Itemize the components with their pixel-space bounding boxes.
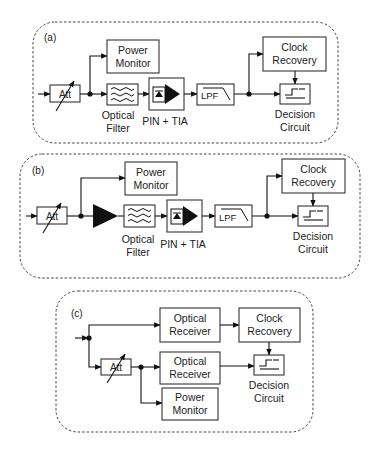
svg-text:Decision: Decision [249,379,289,391]
svg-text:Monitor: Monitor [133,179,169,191]
diagram-canvas: (a) Att Power Monitor Optical Filter [0,0,380,450]
wire [89,325,160,338]
decision-circuit-block: Decision Circuit [275,84,315,133]
decision-circuit-block: Decision Circuit [293,206,333,255]
svg-text:Clock: Clock [281,41,308,53]
svg-text:Circuit: Circuit [298,243,328,255]
attenuator-block: Att [37,203,67,233]
panel-c: (c) Optical Receiver Att Optical Receive… [56,291,313,432]
wire [89,338,101,367]
clock-recovery-block: Clock Recovery [282,159,345,193]
svg-text:PIN + TIA: PIN + TIA [142,115,188,127]
clock-recovery-block: Clock Recovery [239,308,300,342]
svg-text:Filter: Filter [106,122,130,134]
optical-receiver-top-block: Optical Receiver [160,308,220,342]
svg-text:Recovery: Recovery [291,176,336,188]
optical-receiver-bottom-block: Optical Receiver [160,352,220,384]
pin-tia-block: PIN + TIA [142,78,188,127]
wire [249,54,263,94]
svg-text:Optical: Optical [174,312,207,324]
svg-text:Decision: Decision [275,108,315,120]
svg-text:Clock: Clock [256,312,283,324]
svg-text:Receiver: Receiver [169,325,211,337]
svg-text:Circuit: Circuit [254,392,284,404]
pin-tia-block: PIN + TIA [160,200,206,250]
svg-text:Monitor: Monitor [172,404,208,416]
svg-text:LPF: LPF [201,90,219,101]
panel-a: (a) Att Power Monitor Optical Filter [33,22,338,143]
lpf-block: LPF [215,205,252,227]
attenuator-block: Att [101,354,131,383]
svg-text:Optical: Optical [122,233,155,245]
svg-text:Recovery: Recovery [272,54,317,66]
svg-text:Power: Power [136,166,166,178]
panel-c-label: (c) [71,308,83,319]
svg-text:Filter: Filter [126,246,150,258]
panel-b-label: (b) [32,165,44,176]
wire [141,367,162,403]
wire [267,176,282,216]
attenuator-block: Att [50,81,80,111]
decision-circuit-block: Decision Circuit [249,355,289,404]
svg-text:Decision: Decision [293,230,333,242]
svg-text:Optical: Optical [174,355,207,367]
panel-b: (b) Att Power Monitor Optical Filter [20,154,360,278]
svg-text:Power: Power [175,391,205,403]
svg-text:Att: Att [59,89,71,100]
svg-text:Clock: Clock [300,163,327,175]
svg-text:Power: Power [118,44,148,56]
clock-recovery-block: Clock Recovery [263,37,326,71]
svg-text:PIN + TIA: PIN + TIA [160,238,206,250]
svg-text:Circuit: Circuit [280,121,310,133]
svg-text:Monitor: Monitor [115,57,151,69]
svg-text:Optical: Optical [102,109,135,121]
svg-text:Att: Att [46,211,58,222]
optical-filter-block: Optical Filter [102,84,138,134]
optical-filter-block: Optical Filter [122,205,155,258]
svg-text:Recovery: Recovery [247,325,292,337]
svg-text:Receiver: Receiver [169,368,211,380]
power-monitor-block: Power Monitor [107,40,159,73]
power-monitor-block: Power Monitor [125,162,177,195]
optical-amplifier-icon [93,204,118,228]
panel-a-label: (a) [44,32,56,43]
lpf-block: LPF [197,84,234,105]
power-monitor-block: Power Monitor [162,388,218,420]
wire [90,56,107,94]
svg-text:LPF: LPF [219,212,237,223]
